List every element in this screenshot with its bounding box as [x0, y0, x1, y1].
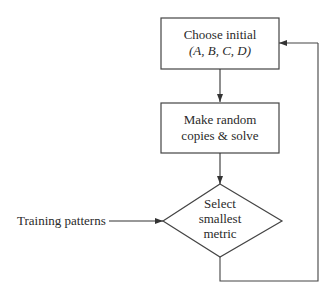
choose-initial-params: (A, B, C, D) — [189, 43, 251, 58]
make-random-line1: Make random — [161, 112, 279, 128]
make-random-line2: copies & solve — [161, 128, 279, 144]
choose-initial-label: Choose initial (A, B, C, D) — [161, 27, 279, 59]
choose-initial-line2: (A, B, C, D) — [161, 43, 279, 59]
training-patterns-label: Training patterns — [17, 213, 106, 229]
select-metric-label: Select smallest metric — [180, 196, 260, 241]
select-line1: Select — [180, 196, 260, 211]
select-line2: smallest — [180, 211, 260, 226]
select-line3: metric — [180, 226, 260, 241]
choose-initial-line1: Choose initial — [161, 27, 279, 43]
make-random-label: Make random copies & solve — [161, 112, 279, 144]
